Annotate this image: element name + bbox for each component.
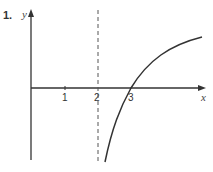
tick-1: 1 — [62, 92, 68, 103]
tick-3: 3 — [128, 92, 134, 103]
log-curve — [105, 37, 202, 162]
x-axis-label: x — [200, 91, 206, 103]
function-graph: y x 1 2 3 — [0, 0, 213, 172]
y-axis-arrow-icon — [28, 9, 34, 17]
y-axis-label: y — [21, 8, 27, 20]
tick-2: 2 — [94, 92, 100, 103]
